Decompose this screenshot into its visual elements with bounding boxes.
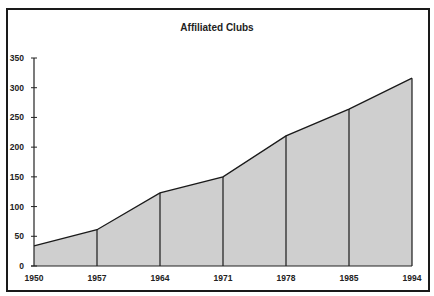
y-tick-label: 300 xyxy=(10,83,24,93)
x-tick-label: 1978 xyxy=(277,273,296,283)
y-tick-label: 150 xyxy=(10,172,24,182)
x-tick-label: 1950 xyxy=(25,273,44,283)
y-tick-label: 50 xyxy=(15,231,25,241)
y-tick-label: 350 xyxy=(10,53,24,63)
x-tick-label: 1964 xyxy=(151,273,170,283)
area-chart: 0501001502002503003501950195719641971197… xyxy=(0,0,434,296)
y-tick-label: 0 xyxy=(19,261,24,271)
x-tick-label: 1957 xyxy=(88,273,107,283)
x-tick-label: 1994 xyxy=(403,273,422,283)
y-tick-label: 100 xyxy=(10,202,24,212)
x-tick-label: 1971 xyxy=(214,273,233,283)
x-tick-label: 1985 xyxy=(340,273,359,283)
y-tick-label: 250 xyxy=(10,112,24,122)
y-tick-label: 200 xyxy=(10,142,24,152)
